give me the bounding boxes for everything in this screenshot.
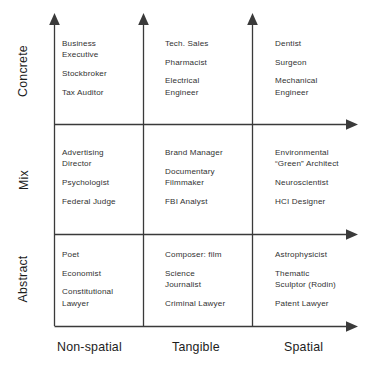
cell-entry: Psychologist [62,177,140,188]
arrowhead-up-middle [138,13,149,25]
cell-entry: Documentary Filmmaker [165,166,250,189]
cell-entry: Neuroscientist [275,177,375,188]
cell-concrete-spatial: Dentist Surgeon Mechanical Engineer [275,38,370,98]
cell-entry: Tech. Sales [165,38,247,49]
row-label-mix: Mix [17,153,31,208]
arrowhead-right-top [346,119,358,130]
arrowhead-right-bottom [346,321,358,332]
cell-entry: Environmental “Green” Architect [275,147,375,170]
cell-entry: Mechanical Engineer [275,75,370,98]
cell-entry: Stockbroker [62,68,140,79]
column-label-non-spatial: Non-spatial [57,340,122,354]
cell-entry: Poet [62,249,142,260]
cell-abstract-tangible: Composer: film Science Journalist Crimin… [165,249,250,309]
cell-entry: Electrical Engineer [165,75,247,98]
cell-mix-tangible: Brand Manager Documentary Filmmaker FBI … [165,147,250,207]
cell-entry: HCI Designer [275,196,375,207]
cell-entry: Criminal Lawyer [165,298,250,309]
cell-entry: Constitutional Lawyer [62,286,142,309]
cell-entry: Surgeon [275,57,370,68]
cell-entry: Economist [62,268,142,279]
cell-entry: Advertising Director [62,147,140,170]
column-label-spatial: Spatial [284,340,323,354]
cell-mix-nonspatial: Advertising Director Psychologist Federa… [62,147,140,207]
cell-entry: Brand Manager [165,147,250,158]
column-label-tangible: Tangible [172,340,220,354]
matrix-diagram: Concrete Mix Abstract Business Executive… [0,0,381,370]
cell-entry: Astrophysicist [275,249,375,260]
cell-entry: Patent Lawyer [275,298,375,309]
cell-abstract-spatial: Astrophysicist Thematic Sculptor (Rodin)… [275,249,375,309]
arrowhead-up-left [49,13,60,25]
arrowhead-up-right [247,13,258,25]
cell-entry: Science Journalist [165,268,250,291]
cell-entry: Thematic Sculptor (Rodin) [275,268,375,291]
cell-mix-spatial: Environmental “Green” Architect Neurosci… [275,147,375,207]
row-label-abstract: Abstract [16,244,30,314]
arrowhead-right-middle [346,229,358,240]
row-label-concrete: Concrete [16,36,30,106]
cell-abstract-nonspatial: Poet Economist Constitutional Lawyer [62,249,142,309]
cell-entry: Federal Judge [62,196,140,207]
cell-entry: Business Executive [62,38,140,61]
cell-entry: Tax Auditor [62,87,140,98]
cell-concrete-tangible: Tech. Sales Pharmacist Electrical Engine… [165,38,247,98]
cell-entry: FBI Analyst [165,196,250,207]
cell-entry: Dentist [275,38,370,49]
cell-entry: Composer: film [165,249,250,260]
cell-entry: Pharmacist [165,57,247,68]
cell-concrete-nonspatial: Business Executive Stockbroker Tax Audit… [62,38,140,98]
